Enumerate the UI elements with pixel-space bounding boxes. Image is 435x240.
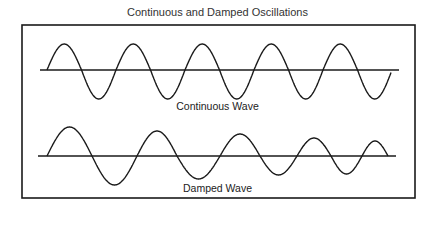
continuous-wave-curve	[47, 44, 391, 99]
continuous-wave-label: Continuous Wave	[0, 100, 435, 112]
damped-wave-label: Damped Wave	[0, 182, 435, 194]
